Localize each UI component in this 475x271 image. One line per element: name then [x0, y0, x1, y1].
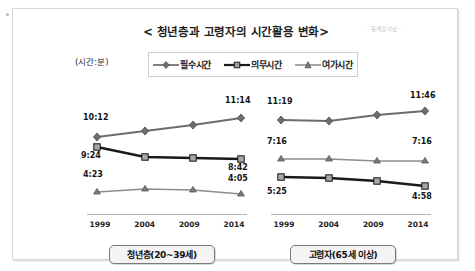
legend-label: 의무시간 [251, 58, 282, 71]
data-label-의무시간-1999: 5:25 [267, 187, 287, 196]
series-line-필수시간 [97, 118, 241, 137]
page-corner-dot [6, 13, 9, 16]
source-note: - 통계청 자료 - [367, 25, 401, 33]
data-point-marker [189, 121, 196, 129]
x-tick-label: 1999 [271, 220, 297, 229]
legend-item-필수시간: 필수시간 [153, 55, 211, 74]
data-label-여가시간-2014: 4:05 [228, 174, 248, 183]
data-point-marker [373, 111, 380, 119]
unit-label: (시간:분) [75, 55, 109, 67]
x-tick-label: 2009 [176, 220, 202, 229]
data-point-marker [190, 155, 196, 161]
data-label-여가시간-2014: 7:16 [412, 137, 432, 146]
data-point-marker [237, 114, 244, 122]
data-label-의무시간-2014: 4:58 [412, 192, 432, 201]
x-tick-label: 2014 [405, 220, 431, 229]
data-point-marker [238, 156, 244, 162]
x-tick-label: 2004 [316, 220, 342, 229]
data-point-marker [326, 155, 333, 161]
x-tick-label: 2004 [132, 220, 158, 229]
data-label-필수시간-1999: 11:19 [267, 97, 292, 106]
square-marker-icon [224, 55, 250, 74]
series-line-필수시간 [281, 111, 425, 121]
diamond-marker-icon [153, 55, 179, 74]
data-label-의무시간-2014: 8:42 [228, 163, 248, 172]
x-axis-line [271, 214, 431, 215]
chart-legend: 필수시간 의무시간 여가시간 [148, 52, 358, 77]
data-point-marker [422, 157, 429, 163]
data-point-marker [94, 144, 100, 150]
series-line-여가시간 [97, 189, 241, 194]
x-tick-label: 1999 [87, 220, 113, 229]
data-point-marker [142, 185, 149, 191]
data-point-marker [93, 133, 100, 141]
data-label-필수시간-2014: 11:46 [410, 91, 435, 100]
data-point-marker [278, 174, 284, 180]
chart-page: < 청년층과 고령자의 시간활용 변화> - 통계청 자료 - (시간:분) 필… [0, 0, 475, 271]
data-point-marker [278, 155, 285, 161]
series-line-의무시간 [281, 177, 425, 186]
data-point-marker [142, 154, 148, 160]
legend-label: 필수시간 [180, 58, 211, 71]
data-point-marker [326, 175, 332, 181]
x-tick-label: 2014 [221, 220, 247, 229]
data-point-marker [422, 183, 428, 189]
data-point-marker [374, 178, 380, 184]
data-point-marker [277, 116, 284, 124]
x-axis-ticks: 1999 2004 2009 2014 [271, 220, 431, 229]
chart-youth: 10:12 11:14 9:24 8:42 4:23 4:05 1999 200… [73, 89, 253, 219]
x-tick-label: 2009 [360, 220, 386, 229]
data-label-필수시간-1999: 10:12 [83, 113, 108, 122]
data-point-marker [190, 186, 197, 192]
data-point-marker [141, 127, 148, 135]
chart-frame: < 청년층과 고령자의 시간활용 변화> - 통계청 자료 - (시간:분) 필… [12, 8, 458, 260]
x-axis-line [87, 214, 247, 215]
x-axis-ticks: 1999 2004 2009 2014 [87, 220, 247, 229]
group-tag-elderly: 고령자(65세 이상) [290, 245, 396, 264]
data-label-여가시간-1999: 7:16 [267, 137, 287, 146]
series-line-여가시간 [281, 159, 425, 161]
data-point-marker [421, 107, 428, 115]
legend-item-의무시간: 의무시간 [224, 55, 282, 74]
series-line-의무시간 [97, 147, 241, 159]
chart-elderly: 11:19 11:46 7:16 7:16 5:25 4:58 1999 200… [261, 89, 441, 219]
data-label-필수시간-2014: 11:14 [225, 96, 250, 105]
data-label-여가시간-1999: 4:23 [83, 170, 103, 179]
triangle-marker-icon [295, 55, 321, 74]
legend-item-여가시간: 여가시간 [295, 55, 353, 74]
data-point-marker [325, 117, 332, 125]
data-label-의무시간-1999: 9:24 [81, 151, 101, 160]
legend-label: 여가시간 [322, 58, 353, 71]
group-tag-youth: 청년층(20~39세) [109, 245, 215, 264]
